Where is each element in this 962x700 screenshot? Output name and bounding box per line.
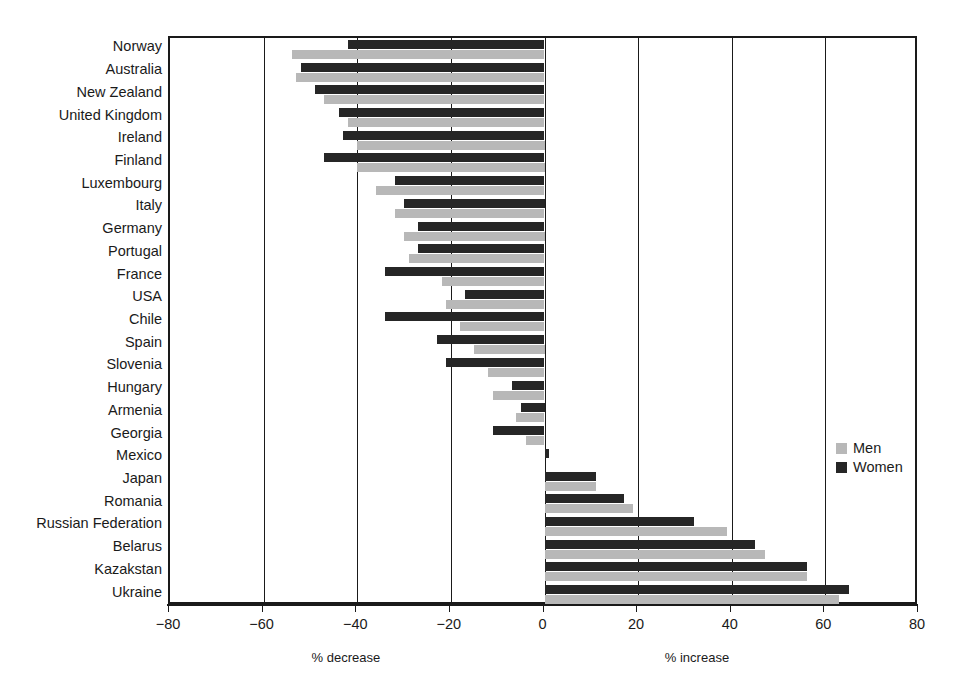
bar-group bbox=[170, 106, 915, 129]
y-axis-label: Germany bbox=[2, 221, 162, 236]
y-axis-label: United Kingdom bbox=[2, 108, 162, 123]
bar-group bbox=[170, 447, 915, 470]
bar-men bbox=[460, 322, 544, 331]
legend-swatch-men-icon bbox=[836, 443, 847, 454]
bar-group bbox=[170, 538, 915, 561]
bar-group bbox=[170, 129, 915, 152]
plot-area bbox=[168, 36, 917, 604]
bar-men bbox=[442, 277, 545, 286]
bar-women bbox=[465, 290, 545, 299]
bar-women bbox=[545, 585, 849, 594]
bar-men bbox=[324, 95, 544, 104]
bar-women bbox=[493, 426, 544, 435]
bar-men bbox=[409, 254, 545, 263]
bar-group bbox=[170, 561, 915, 584]
y-axis-label: Australia bbox=[2, 62, 162, 77]
y-axis-label: Slovenia bbox=[2, 357, 162, 372]
x-tick-label: 20 bbox=[606, 616, 666, 632]
x-tick--60 bbox=[262, 606, 263, 612]
x-tick-label: 40 bbox=[700, 616, 760, 632]
bar-group bbox=[170, 242, 915, 265]
x-tick-label: 0 bbox=[513, 616, 573, 632]
bar-women bbox=[521, 403, 544, 412]
y-axis-label: Russian Federation bbox=[2, 516, 162, 531]
x-tick-label: −80 bbox=[138, 616, 198, 632]
bar-men bbox=[545, 504, 634, 513]
bar-group bbox=[170, 333, 915, 356]
bar-men bbox=[493, 391, 544, 400]
bar-men bbox=[526, 436, 545, 445]
x-tick-label: 60 bbox=[793, 616, 853, 632]
bar-men bbox=[404, 232, 544, 241]
bar-group bbox=[170, 492, 915, 515]
horizontal-bar-chart: NorwayAustraliaNew ZealandUnited Kingdom… bbox=[0, 0, 962, 700]
bar-group bbox=[170, 197, 915, 220]
bar-group bbox=[170, 61, 915, 84]
bar-men bbox=[545, 550, 765, 559]
bar-women bbox=[545, 494, 625, 503]
x-tick-20 bbox=[636, 606, 637, 612]
bar-men bbox=[395, 209, 545, 218]
bar-group bbox=[170, 174, 915, 197]
bar-women bbox=[324, 153, 544, 162]
bar-group bbox=[170, 583, 915, 606]
x-tick-label: 80 bbox=[887, 616, 947, 632]
y-axis-label: Norway bbox=[2, 39, 162, 54]
bar-women bbox=[545, 517, 695, 526]
bar-men bbox=[376, 186, 545, 195]
legend-item-men: Men bbox=[836, 440, 926, 457]
y-axis-label: Portugal bbox=[2, 244, 162, 259]
y-axis-label: Ireland bbox=[2, 130, 162, 145]
y-axis-label: Georgia bbox=[2, 426, 162, 441]
bar-women bbox=[343, 131, 544, 140]
y-axis-label: Hungary bbox=[2, 380, 162, 395]
y-axis-label: New Zealand bbox=[2, 85, 162, 100]
x-tick-40 bbox=[730, 606, 731, 612]
bar-group bbox=[170, 265, 915, 288]
bar-group bbox=[170, 402, 915, 425]
bar-group bbox=[170, 311, 915, 334]
x-tick--80 bbox=[168, 606, 169, 612]
bar-women bbox=[446, 358, 544, 367]
bar-women bbox=[339, 108, 545, 117]
bar-women bbox=[545, 449, 550, 458]
chart-legend: Men Women bbox=[836, 440, 926, 478]
y-axis-label: Japan bbox=[2, 471, 162, 486]
y-axis-label: Kazakstan bbox=[2, 562, 162, 577]
y-axis-label: Mexico bbox=[2, 448, 162, 463]
bar-group bbox=[170, 288, 915, 311]
bar-men bbox=[292, 50, 545, 59]
bar-men bbox=[474, 345, 544, 354]
legend-swatch-women-icon bbox=[836, 462, 847, 473]
bar-women bbox=[404, 199, 544, 208]
y-axis-label: Belarus bbox=[2, 539, 162, 554]
legend-item-women: Women bbox=[836, 459, 926, 476]
bar-women bbox=[545, 562, 807, 571]
bar-women bbox=[545, 472, 596, 481]
bar-men bbox=[545, 595, 840, 604]
y-axis-label: Romania bbox=[2, 494, 162, 509]
bar-women bbox=[512, 381, 545, 390]
bar-women bbox=[315, 85, 544, 94]
x-axis: −80−60−40−20020406080% decrease% increas… bbox=[168, 604, 917, 648]
y-axis-label: Chile bbox=[2, 312, 162, 327]
bar-group bbox=[170, 379, 915, 402]
bar-women bbox=[385, 312, 544, 321]
bar-men bbox=[545, 482, 596, 491]
bar-women bbox=[437, 335, 545, 344]
bar-women bbox=[348, 40, 545, 49]
bar-women bbox=[395, 176, 545, 185]
bar-men bbox=[357, 141, 544, 150]
bar-women bbox=[301, 63, 544, 72]
x-tick-60 bbox=[823, 606, 824, 612]
y-axis-label: Spain bbox=[2, 335, 162, 350]
y-axis-label: France bbox=[2, 267, 162, 282]
bar-women bbox=[418, 222, 544, 231]
y-axis-label: Armenia bbox=[2, 403, 162, 418]
bar-group bbox=[170, 470, 915, 493]
bar-women bbox=[545, 540, 756, 549]
bar-group bbox=[170, 424, 915, 447]
x-tick-80 bbox=[917, 606, 918, 612]
bar-men bbox=[545, 572, 807, 581]
bar-group bbox=[170, 83, 915, 106]
